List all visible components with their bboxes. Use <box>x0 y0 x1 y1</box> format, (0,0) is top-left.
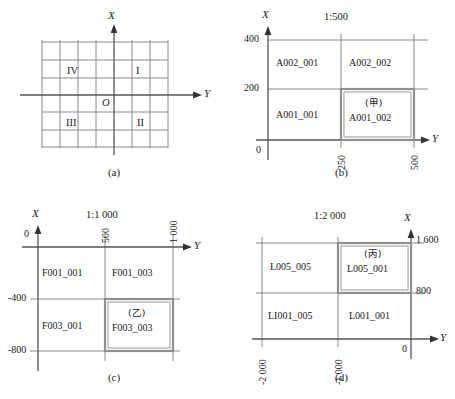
x-tick-0: 0 <box>24 229 29 239</box>
axis-y-label: Y <box>432 133 438 144</box>
grid-lines <box>42 40 168 148</box>
x-tick-1600: 1 600 <box>416 235 439 245</box>
figure-sheet: X Y O IV I III II (a) <box>0 0 455 399</box>
quadrant-iv-label: IV <box>67 66 78 77</box>
cell-l005-001: L005_001 <box>347 264 388 274</box>
y-axis-arrow <box>430 336 439 343</box>
cell-a001-002: A001_002 <box>349 113 391 123</box>
x-tick-800: 800 <box>416 286 431 296</box>
panel-d-caption: (d) <box>228 371 455 383</box>
scale-label: 1:2 000 <box>314 211 346 222</box>
cell-a001-001: A001_001 <box>276 110 318 120</box>
grid-lines <box>268 34 428 148</box>
quadrant-i-label: I <box>136 66 140 77</box>
scale-label: 1:1 000 <box>86 210 118 221</box>
axis-x-label: X <box>262 9 269 20</box>
cell-marker-yi: (乙) <box>128 308 145 318</box>
axis-x-label: X <box>32 208 39 219</box>
x-axis-arrow <box>408 229 415 238</box>
x-tick-200: 200 <box>244 83 259 93</box>
panel-c: X Y 1:1 000 0 -400 -800 500 1 000 F001_0… <box>0 199 228 399</box>
panel-b-caption: (b) <box>228 166 455 178</box>
y-axis-arrow <box>193 92 202 99</box>
cell-l005-005: L005_005 <box>270 262 311 272</box>
axis-x-label: X <box>404 212 411 223</box>
axis-lines <box>20 30 196 155</box>
x-tick-0: 0 <box>256 145 261 155</box>
cell-a002-002: A002_002 <box>349 58 391 68</box>
y-tick-500: 500 <box>101 228 111 243</box>
axis-x-label: X <box>108 10 115 21</box>
quadrant-iii-label: III <box>66 118 77 129</box>
panel-d: X Y 1:2 000 1 600 800 0 -2 000 -1 000 L0… <box>228 199 455 399</box>
panel-c-graphic <box>0 199 228 399</box>
x-tick-neg800: -800 <box>8 345 26 355</box>
scale-label: 1:500 <box>324 12 348 23</box>
y-tick-1000: 1 000 <box>169 221 179 244</box>
cell-f003-003: F003_003 <box>112 323 153 333</box>
cell-li001-005: LI001_005 <box>268 311 312 321</box>
origin-label: O <box>102 98 110 109</box>
axis-y-label: Y <box>194 240 200 251</box>
panel-a-caption: (a) <box>0 166 228 178</box>
y-axis-arrow <box>183 244 192 251</box>
x-axis-arrow <box>111 24 118 33</box>
y-axis-arrow <box>421 137 430 144</box>
axis-lines <box>252 235 433 359</box>
cell-a002-001: A002_001 <box>276 58 318 68</box>
cell-marker-bing: (丙) <box>364 249 381 259</box>
panel-b: X Y 1:500 400 200 0 250 500 A002_001 A00… <box>228 0 455 199</box>
axis-y-label: Y <box>440 332 446 343</box>
axis-y-label: Y <box>204 88 210 99</box>
x-tick-neg400: -400 <box>8 293 26 303</box>
cell-f001-003: F001_003 <box>112 268 153 278</box>
cell-f003-001: F003_001 <box>42 321 83 331</box>
x-axis-arrow <box>265 26 272 35</box>
x-axis-arrow <box>35 225 42 234</box>
cell-l001-001: L001_001 <box>349 311 390 321</box>
cell-marker-jia: (甲) <box>365 98 382 108</box>
x-tick-0: 0 <box>402 344 407 354</box>
panel-a: X Y O IV I III II (a) <box>0 0 228 199</box>
panel-c-caption: (c) <box>0 371 228 383</box>
quadrant-ii-label: II <box>137 118 144 129</box>
x-tick-400: 400 <box>244 34 259 44</box>
cell-f001-001: F001_001 <box>42 268 83 278</box>
